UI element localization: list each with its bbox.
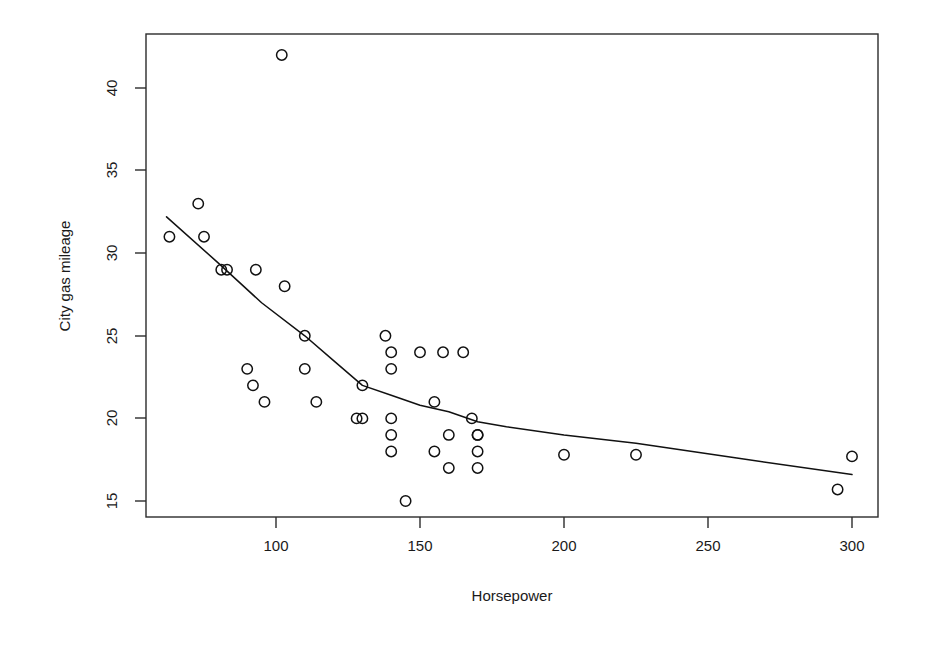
data-point xyxy=(248,380,258,390)
x-tick-label: 300 xyxy=(839,537,864,554)
scatter-plot-figure: 100 150 200 250 300 15 20 25 30 35 40 Ho… xyxy=(0,0,925,658)
data-point xyxy=(472,463,482,473)
data-point xyxy=(242,364,252,374)
data-point xyxy=(400,496,410,506)
data-point xyxy=(631,450,641,460)
x-tick-label: 200 xyxy=(551,537,576,554)
data-point xyxy=(438,347,448,357)
data-point xyxy=(279,281,289,291)
x-tick-label: 250 xyxy=(695,537,720,554)
data-point xyxy=(429,397,439,407)
data-point xyxy=(386,430,396,440)
data-point xyxy=(472,430,482,440)
data-point xyxy=(164,231,174,241)
lowess-smoother-line xyxy=(167,217,852,475)
x-axis-title: Horsepower xyxy=(472,587,553,604)
data-point xyxy=(415,347,425,357)
x-tick-label: 150 xyxy=(407,537,432,554)
x-tick-label: 100 xyxy=(263,537,288,554)
data-point xyxy=(311,397,321,407)
data-point xyxy=(444,463,454,473)
data-point xyxy=(429,446,439,456)
data-point xyxy=(386,413,396,423)
data-point xyxy=(386,364,396,374)
x-axis-ticks xyxy=(276,517,852,528)
data-point xyxy=(251,265,261,275)
y-tick-label: 35 xyxy=(103,162,120,179)
y-tick-label: 25 xyxy=(103,328,120,345)
y-tick-label: 15 xyxy=(103,493,120,510)
data-point xyxy=(847,451,857,461)
data-point xyxy=(559,450,569,460)
data-point xyxy=(386,446,396,456)
data-point xyxy=(193,198,203,208)
scatter-points-group xyxy=(164,50,857,506)
data-point xyxy=(300,364,310,374)
data-point xyxy=(832,484,842,494)
data-point xyxy=(386,347,396,357)
x-axis-tick-labels: 100 150 200 250 300 xyxy=(263,537,864,554)
data-point xyxy=(259,397,269,407)
chart-canvas: 100 150 200 250 300 15 20 25 30 35 40 Ho… xyxy=(0,0,925,658)
data-point xyxy=(277,50,287,60)
y-tick-label: 20 xyxy=(103,410,120,427)
y-axis-title: City gas mileage xyxy=(56,221,73,332)
y-tick-label: 30 xyxy=(103,245,120,262)
y-tick-label: 40 xyxy=(103,80,120,97)
data-point xyxy=(444,430,454,440)
y-axis-tick-labels: 15 20 25 30 35 40 xyxy=(103,80,120,510)
data-point xyxy=(380,331,390,341)
data-point xyxy=(199,231,209,241)
y-axis-ticks xyxy=(135,88,146,501)
data-point xyxy=(458,347,468,357)
data-point xyxy=(472,446,482,456)
